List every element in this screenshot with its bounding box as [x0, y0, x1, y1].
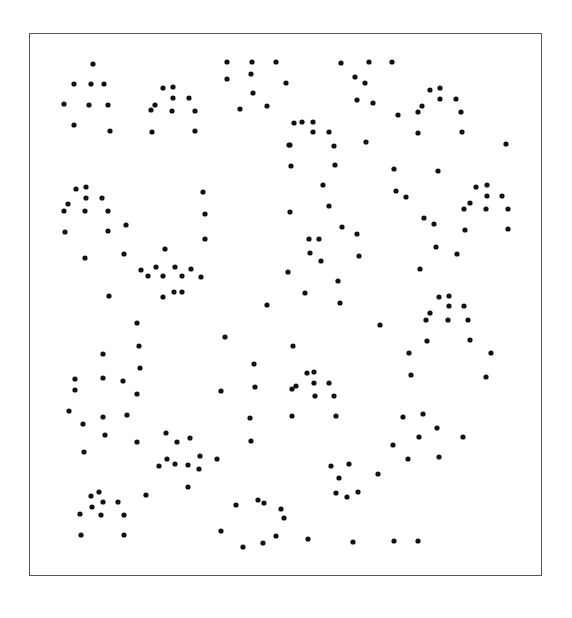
dot: [354, 231, 359, 236]
dot: [83, 184, 88, 189]
dot: [316, 236, 321, 241]
dot: [237, 106, 242, 111]
dot: [65, 201, 70, 206]
dot: [72, 376, 77, 381]
dot: [89, 504, 94, 509]
dot: [120, 378, 125, 383]
dot: [483, 374, 488, 379]
dot: [186, 95, 191, 100]
dot: [170, 95, 175, 100]
dot: [137, 365, 142, 370]
dot: [100, 414, 105, 419]
dot: [291, 120, 296, 125]
dot: [197, 453, 202, 458]
dot: [333, 413, 338, 418]
dot: [461, 303, 466, 308]
dot: [152, 102, 157, 107]
dot: [505, 226, 510, 231]
dot: [192, 128, 197, 133]
dot: [162, 246, 167, 251]
dot: [251, 361, 256, 366]
dot: [124, 412, 129, 417]
dot: [311, 369, 316, 374]
dot: [304, 370, 309, 375]
dot: [214, 456, 219, 461]
dot: [326, 203, 331, 208]
dot: [307, 250, 312, 255]
dot: [405, 456, 410, 461]
dot: [417, 266, 422, 271]
dot: [473, 184, 478, 189]
dot: [488, 350, 493, 355]
dot: [218, 528, 223, 533]
dot: [163, 430, 168, 435]
dot: [188, 266, 193, 271]
dot: [437, 85, 442, 90]
dot: [247, 415, 252, 420]
dot: [224, 59, 229, 64]
dot: [192, 108, 197, 113]
dot: [179, 273, 184, 278]
dot: [160, 85, 165, 90]
dot: [136, 343, 141, 348]
dot: [260, 540, 265, 545]
dot: [421, 215, 426, 220]
dot: [100, 351, 105, 356]
dot: [96, 489, 101, 494]
dot: [287, 142, 292, 147]
dot: [395, 112, 400, 117]
dot: [499, 193, 504, 198]
dot: [86, 102, 91, 107]
dot: [290, 343, 295, 348]
dot: [218, 388, 223, 393]
dot: [408, 372, 413, 377]
dot: [416, 434, 421, 439]
dot: [80, 421, 85, 426]
dot: [391, 538, 396, 543]
dot: [100, 375, 105, 380]
dot: [187, 435, 192, 440]
dot: [344, 494, 349, 499]
dot: [302, 290, 307, 295]
dot: [352, 74, 357, 79]
dot: [273, 533, 278, 538]
dot: [285, 269, 290, 274]
dot: [81, 449, 86, 454]
dot: [445, 317, 450, 322]
dot: [179, 289, 184, 294]
dot: [299, 119, 304, 124]
dot: [446, 303, 451, 308]
dot: [62, 229, 67, 234]
dot: [264, 302, 269, 307]
dot: [436, 294, 441, 299]
dot: [415, 130, 420, 135]
dot: [202, 236, 207, 241]
dot: [283, 80, 288, 85]
dot: [453, 96, 458, 101]
dot: [403, 194, 408, 199]
dot: [311, 380, 316, 385]
dot: [224, 76, 229, 81]
dot: [356, 253, 361, 258]
dot: [185, 462, 190, 467]
dot: [350, 539, 355, 544]
dot: [305, 536, 310, 541]
dot: [99, 195, 104, 200]
dot: [467, 337, 472, 342]
dot: [100, 499, 105, 504]
dot: [90, 61, 95, 66]
dot: [333, 490, 338, 495]
dot: [172, 264, 177, 269]
dot: [273, 59, 278, 64]
dot: [255, 497, 260, 502]
dot: [121, 532, 126, 537]
dot: [461, 206, 466, 211]
dot: [156, 463, 161, 468]
dot: [264, 103, 269, 108]
dot: [82, 255, 87, 260]
dot: [88, 493, 93, 498]
dot: [366, 59, 371, 64]
dot: [375, 471, 380, 476]
dot: [458, 109, 463, 114]
dot: [233, 502, 238, 507]
